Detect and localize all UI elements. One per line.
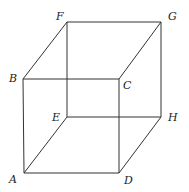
edge-DH bbox=[119, 117, 161, 173]
edge-AE bbox=[24, 117, 67, 173]
edges bbox=[23, 22, 161, 173]
label-C: C bbox=[123, 79, 132, 92]
label-B: B bbox=[8, 72, 17, 85]
label-G: G bbox=[168, 10, 177, 23]
edge-AB bbox=[23, 79, 24, 173]
cube-diagram: F G B C E H A D bbox=[0, 0, 189, 192]
label-A: A bbox=[8, 173, 17, 186]
label-D: D bbox=[123, 174, 133, 187]
edge-BF bbox=[23, 22, 67, 79]
label-H: H bbox=[167, 111, 178, 124]
edge-CG bbox=[119, 22, 161, 79]
label-F: F bbox=[55, 10, 64, 23]
label-E: E bbox=[51, 111, 60, 124]
